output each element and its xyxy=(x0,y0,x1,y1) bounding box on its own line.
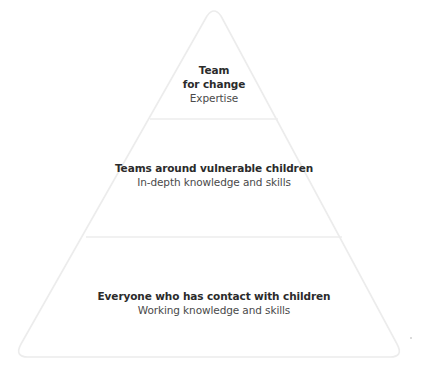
tier-top-title-line2: for change xyxy=(0,77,428,91)
tier-bottom-subtitle: Working knowledge and skills xyxy=(0,303,428,317)
tier-top-subtitle: Expertise xyxy=(0,91,428,105)
tier-middle: Teams around vulnerable children In-dept… xyxy=(0,161,428,189)
stray-dot xyxy=(410,337,412,339)
tier-bottom: Everyone who has contact with children W… xyxy=(0,289,428,317)
tier-top: Team for change Expertise xyxy=(0,63,428,105)
tier-middle-title: Teams around vulnerable children xyxy=(0,161,428,175)
tier-bottom-title: Everyone who has contact with children xyxy=(0,289,428,303)
tier-middle-subtitle: In-depth knowledge and skills xyxy=(0,175,428,189)
tier-top-title-line1: Team xyxy=(0,63,428,77)
